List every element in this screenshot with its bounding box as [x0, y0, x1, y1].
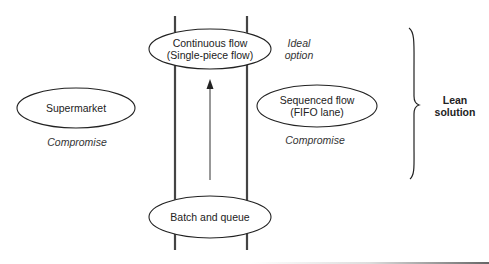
continuous-flow-line2: (Single-piece flow)	[150, 49, 270, 61]
ideal-option-note: Ideal option	[279, 37, 319, 61]
sequenced-compromise-note: Compromise	[280, 134, 350, 146]
supermarket-label: Supermarket	[17, 102, 135, 114]
right-brace-icon	[409, 28, 419, 179]
ideal-note-line1: Ideal	[279, 37, 319, 49]
batch-and-queue-label: Batch and queue	[150, 211, 270, 223]
supermarket-compromise-note: Compromise	[42, 136, 112, 148]
continuous-flow-label: Continuous flow (Single-piece flow)	[150, 37, 270, 61]
lean-solution-line2: solution	[425, 106, 485, 118]
sequenced-flow-label: Sequenced flow (FIFO lane)	[257, 94, 377, 118]
lean-solution-label: Lean solution	[425, 94, 485, 118]
lean-solution-line1: Lean	[425, 94, 485, 106]
lean-flow-diagram: Continuous flow (Single-piece flow) Supe…	[0, 0, 489, 264]
arrow-up-icon	[207, 79, 214, 89]
ideal-note-line2: option	[279, 49, 319, 61]
continuous-flow-line1: Continuous flow	[150, 37, 270, 49]
sequenced-flow-line1: Sequenced flow	[257, 94, 377, 106]
sequenced-flow-line2: (FIFO lane)	[257, 106, 377, 118]
